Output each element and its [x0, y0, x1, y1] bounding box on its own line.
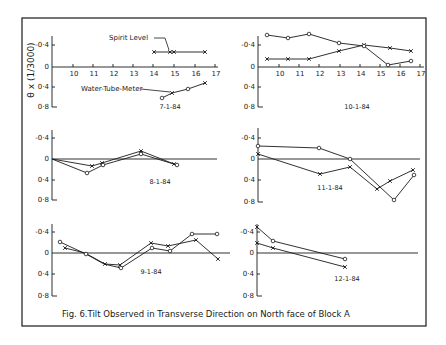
- svg-text:0: 0: [45, 63, 49, 71]
- panel-8-1-84-markers: [85, 149, 179, 175]
- panel-date-label: 10-1-84: [344, 103, 369, 111]
- svg-text:17: 17: [417, 70, 426, 78]
- panel-date-label: 9-1-84: [140, 268, 161, 276]
- svg-text:17: 17: [212, 70, 221, 78]
- svg-text:0·8: 0·8: [244, 103, 255, 111]
- svg-text:-0·4: -0·4: [35, 228, 49, 236]
- svg-text:-0·4: -0·4: [240, 228, 254, 236]
- svg-text:-0·4: -0·4: [241, 134, 255, 142]
- svg-text:0: 0: [251, 155, 255, 163]
- svg-text:0·8: 0·8: [38, 292, 49, 300]
- panel-9-1-84: [52, 224, 230, 296]
- panel-8-1-84-ticklabels: -0·4 0 0·4 0·8: [35, 134, 49, 204]
- svg-text:-0·4: -0·4: [35, 41, 49, 49]
- panel-9-1-84-ticklabels: -0·4 0 0·4 0·8: [35, 228, 49, 300]
- svg-text:0: 0: [45, 155, 49, 163]
- panel-12-1-84: [257, 224, 418, 296]
- panel-8-1-84: [52, 130, 217, 200]
- figure-caption: Fig. 6.Tilt Observed in Transverse Direc…: [62, 309, 350, 319]
- svg-text:0: 0: [250, 249, 254, 257]
- panel-7-1-84-ticklabels: -0·4 0 0·4 0·8 10 11 12 13 14 15 16 17: [35, 41, 220, 111]
- panel-10-1-84-ticklabels: -0·4 0 0·4 0·8 10 11 12 13 14 15 16 17: [241, 41, 425, 111]
- svg-text:0·4: 0·4: [38, 83, 50, 91]
- svg-text:0·8: 0·8: [38, 103, 49, 111]
- svg-text:0·4: 0·4: [243, 270, 255, 278]
- svg-text:0·4: 0·4: [38, 176, 50, 184]
- svg-text:15: 15: [171, 70, 180, 78]
- svg-text:14: 14: [150, 70, 159, 78]
- svg-text:-0·4: -0·4: [35, 134, 49, 142]
- svg-text:0·8: 0·8: [243, 292, 254, 300]
- svg-text:0·8: 0·8: [244, 198, 255, 206]
- svg-text:13: 13: [337, 70, 346, 78]
- panel-date-label: 7-1-84: [159, 103, 180, 111]
- svg-text:13: 13: [130, 70, 139, 78]
- svg-text:14: 14: [357, 70, 366, 78]
- svg-text:12: 12: [316, 70, 325, 78]
- svg-text:-0·4: -0·4: [241, 41, 255, 49]
- svg-text:15: 15: [377, 70, 386, 78]
- panel-date-label: 12-1-84: [334, 275, 359, 283]
- svg-text:0: 0: [251, 63, 255, 71]
- svg-text:0·4: 0·4: [38, 270, 50, 278]
- panel-date-label: 11-1-84: [317, 184, 342, 192]
- y-axis-label: θ x (1/3000): [26, 42, 36, 97]
- panel-12-1-84-ticklabels: -0·4 0 0·4 0·8: [240, 228, 254, 300]
- svg-text:12: 12: [110, 70, 119, 78]
- panel-10-1-84-markers: [265, 32, 413, 67]
- legend-spirit-level: Spirit Level: [109, 34, 148, 42]
- svg-text:11: 11: [296, 70, 305, 78]
- svg-text:16: 16: [192, 70, 201, 78]
- svg-text:10: 10: [70, 70, 79, 78]
- svg-text:0·4: 0·4: [244, 176, 256, 184]
- svg-text:11: 11: [90, 70, 99, 78]
- svg-text:0·4: 0·4: [244, 83, 256, 91]
- figure-canvas: θ x (1/3000) -0·4 0 0·4 0·8 10 11 12 13 …: [0, 0, 446, 345]
- svg-text:0·8: 0·8: [38, 196, 49, 204]
- svg-text:16: 16: [397, 70, 406, 78]
- panel-11-1-84-markers: [256, 144, 416, 202]
- figure-frame: [22, 18, 426, 326]
- legend-water-tube-meter: Water-Tube-Meter: [81, 85, 142, 93]
- svg-text:10: 10: [276, 70, 285, 78]
- svg-text:0: 0: [45, 249, 49, 257]
- panel-date-label: 8-1-84: [149, 178, 170, 186]
- panel-11-1-84-ticklabels: -0·4 0 0·4 0·8: [241, 134, 255, 206]
